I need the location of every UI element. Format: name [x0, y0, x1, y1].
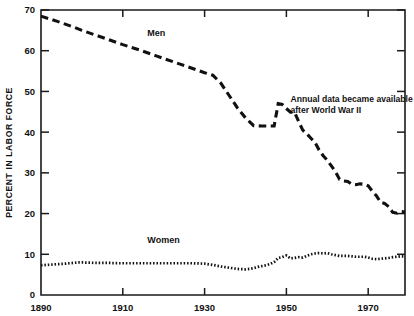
- labor-force-participation-chart: 18901910193019501970 010203040506070 Men…: [0, 0, 414, 316]
- y-tick-label: 10: [24, 249, 35, 260]
- x-tick-label: 1910: [112, 302, 133, 313]
- figure-container: 18901910193019501970 010203040506070 Men…: [0, 0, 414, 316]
- series-label-men: Men: [147, 28, 165, 38]
- y-tick-label: 20: [24, 208, 35, 219]
- x-tick-label: 1890: [30, 302, 51, 313]
- x-tick-label: 1950: [276, 302, 297, 313]
- y-tick-label: 70: [24, 4, 35, 15]
- y-tick-label: 0: [30, 289, 35, 300]
- chart-background: [0, 0, 414, 316]
- series-label-women: Women: [147, 235, 179, 245]
- y-tick-label: 30: [24, 167, 35, 178]
- y-axis-title: PERCENT IN LABOR FORCE: [4, 87, 14, 218]
- y-tick-label: 50: [24, 86, 35, 97]
- y-tick-label: 60: [24, 45, 35, 56]
- x-tick-label: 1970: [358, 302, 379, 313]
- x-tick-label: 1930: [194, 302, 215, 313]
- y-tick-label: 40: [24, 127, 35, 138]
